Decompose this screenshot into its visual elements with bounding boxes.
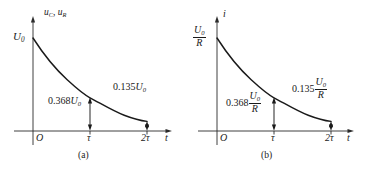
coef-0368-b: 0.368 [226, 97, 249, 108]
annotation-label-0135-a: 0.135U0 [113, 82, 146, 93]
x-tick-label-2tau-a: 2τ [141, 133, 150, 143]
y-axis-arrowhead [31, 16, 35, 23]
annotation-label-0368-a: 0.368U0 [48, 96, 81, 107]
panel-a: uC, uR U0 O τ 2τ t 0.368U0 0.135U0 (a) [0, 0, 184, 169]
quantity-sub-0368-a: 0 [78, 100, 81, 107]
panel-b: i U0 R O τ 2τ t 0.368 U0 R 0.135 U0 R [185, 0, 369, 169]
y-axis-label-a-comma: , [53, 7, 55, 17]
x-axis-label-b: t [347, 133, 350, 143]
x-tick-label-tau-a: τ [87, 133, 91, 143]
annotation-label-0135-b: 0.135 U0 R [292, 78, 327, 101]
annotation-arrow-tau-a [88, 97, 92, 130]
y-intercept-label-a: U0 [13, 31, 25, 44]
origin-label-b: O [220, 133, 227, 143]
y-intercept-label-b: U0 R [193, 26, 206, 49]
fraction-denominator-b: R [193, 37, 206, 49]
annotation-arrow-tau-b [272, 97, 276, 130]
y-axis-arrowhead [215, 16, 219, 23]
panel-b-caption: (b) [261, 151, 272, 161]
panel-b-plot [185, 0, 369, 169]
origin-label-a: O [36, 133, 43, 143]
quantity-sub-0135-a: 0 [143, 86, 146, 93]
coef-0135-a: 0.135 [113, 81, 136, 92]
fraction-0135-den-b: R [315, 89, 328, 101]
y-axis-label-a-sub2: R [62, 11, 66, 18]
u0-sub-a: 0 [21, 36, 25, 44]
x-tick-label-2tau-b: 2τ [325, 133, 334, 143]
y-axis-label-a: uC, uR [44, 8, 66, 18]
quantity-u-0368-a: U [71, 95, 78, 106]
u0-symbol-a: U [13, 30, 21, 42]
annotation-label-0368-b: 0.368 U0 R [226, 92, 261, 115]
x-tick-label-tau-b: τ [271, 133, 275, 143]
fraction-numerator-b: U0 [193, 25, 206, 37]
coef-0135-b: 0.135 [292, 83, 315, 94]
fraction-0368-b: U0 R [249, 91, 262, 114]
coef-0368-a: 0.368 [48, 95, 71, 106]
x-axis-label-a: t [165, 133, 168, 143]
quantity-u-0135-a: U [136, 81, 143, 92]
fraction-0368-num-b: U0 [249, 91, 262, 103]
fraction-0135-num-b: U0 [315, 77, 328, 89]
fraction-0135-b: U0 R [315, 77, 328, 100]
annotation-arrow-2tau-a [145, 121, 149, 131]
fraction-u0-over-r-b: U0 R [193, 25, 206, 48]
panel-a-caption: (a) [78, 151, 89, 161]
fraction-0368-den-b: R [249, 103, 262, 115]
annotation-arrow-2tau-b [329, 121, 333, 131]
panel-a-plot [0, 0, 184, 169]
y-axis-label-b: i [223, 9, 226, 19]
figure-container: uC, uR U0 O τ 2τ t 0.368U0 0.135U0 (a) [0, 0, 369, 169]
